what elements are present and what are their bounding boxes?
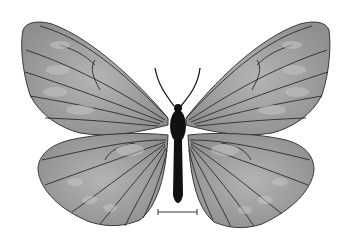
butterfly-figure [0,0,352,241]
right-hindwing [188,133,314,227]
butterfly-body [170,104,186,203]
scale-bar [158,209,197,215]
left-forewing [22,22,168,135]
butterfly-image [0,0,352,241]
right-forewing [186,22,330,135]
antennae [155,68,200,106]
left-hindwing [38,133,168,226]
